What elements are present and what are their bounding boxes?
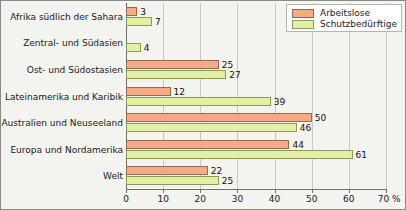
- tick-mark-40: [275, 189, 276, 193]
- bar-value-label: 12: [174, 88, 185, 97]
- tick-label-60: 60: [343, 194, 354, 205]
- tick-mark-10: [163, 189, 164, 193]
- tick-label-50: 50: [306, 194, 317, 205]
- bar-value-label: 44: [292, 141, 303, 150]
- bar: [126, 70, 226, 79]
- bar: [126, 87, 171, 96]
- legend-label-arbeitslose: Arbeitslose: [320, 8, 370, 19]
- bar-value-label: 25: [222, 61, 233, 70]
- bar: [126, 150, 353, 159]
- category-label: Welt: [1, 171, 123, 181]
- tick-label-20: 20: [195, 194, 206, 205]
- category-label: Afrika südlich der Sahara: [1, 12, 123, 22]
- bar-value-label: 25: [222, 177, 233, 186]
- tick-mark-0: [126, 189, 127, 193]
- bar: [126, 97, 271, 106]
- tick-label-40: 40: [269, 194, 280, 205]
- x-axis-line: [126, 189, 387, 190]
- tick-mark-50: [312, 189, 313, 193]
- tick-mark-30: [237, 189, 238, 193]
- tick-mark-60: [349, 189, 350, 193]
- bar-value-label: 7: [155, 18, 161, 27]
- bar-value-label: 4: [144, 44, 150, 53]
- legend-swatch-schutzbeduerftige: [292, 20, 314, 29]
- tick-mark-70: [386, 189, 387, 193]
- category-label: Europa und Nordamerika: [1, 145, 123, 155]
- tick-mark-20: [200, 189, 201, 193]
- legend-label-schutzbeduerftige: Schutzbedürftige: [320, 19, 397, 30]
- category-label: Australien und Neuseeland: [1, 118, 123, 128]
- bar-chart: 37425271239504644612225 010203040506070 …: [0, 0, 406, 210]
- legend-swatch-arbeitslose: [292, 9, 314, 18]
- bar-value-label: 22: [211, 167, 222, 176]
- bar: [126, 17, 152, 26]
- tick-label-10: 10: [157, 194, 168, 205]
- tick-label-0: 0: [123, 194, 129, 205]
- bar-value-label: 39: [274, 98, 285, 107]
- tick-label-30: 30: [232, 194, 243, 205]
- bar: [126, 123, 297, 132]
- bar-value-label: 61: [356, 151, 367, 160]
- bar: [126, 113, 312, 122]
- bar-value-label: 50: [315, 114, 326, 123]
- bar: [126, 140, 289, 149]
- bar: [126, 43, 141, 52]
- bar-value-label: 3: [140, 8, 146, 17]
- category-label: Lateinamerika und Karibik: [1, 92, 123, 102]
- category-label: Ost- und Südostasien: [1, 65, 123, 75]
- bar: [126, 166, 208, 175]
- bar-value-label: 27: [229, 71, 240, 80]
- category-label: Zentral- und Südasien: [1, 38, 123, 48]
- gridline-40: [275, 3, 276, 189]
- bar: [126, 7, 137, 16]
- category-axis-labels: Afrika südlich der SaharaZentral- und Sü…: [1, 3, 123, 189]
- bar: [126, 176, 219, 185]
- tick-label-70: 70 %: [378, 194, 401, 205]
- bar-value-label: 46: [300, 124, 311, 133]
- legend: Arbeitslose Schutzbedürftige: [286, 4, 402, 32]
- bar: [126, 60, 219, 69]
